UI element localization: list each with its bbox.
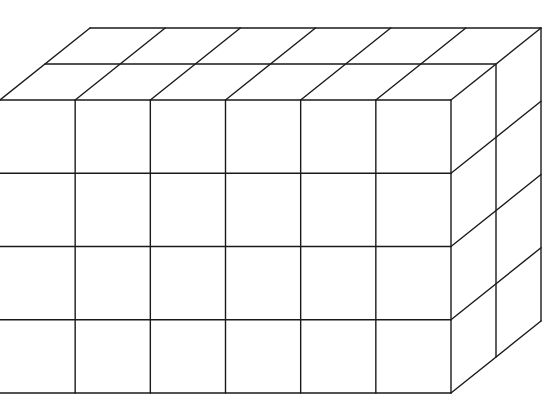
cube-prism-diagram bbox=[0, 0, 545, 396]
